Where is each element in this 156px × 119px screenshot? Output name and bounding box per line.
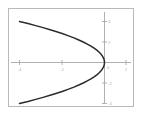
- x-tick-label-minus4: -4: [18, 67, 22, 72]
- plot-canvas: -4 -2 2 0 4 2 -2 -4: [9, 9, 133, 106]
- y-tick-label-4: 4: [108, 19, 111, 24]
- origin-label: 0: [107, 65, 110, 70]
- x-tick-label-2: 2: [125, 67, 128, 72]
- y-tick-label-2: 2: [108, 40, 111, 45]
- x-tick-label-minus2: -2: [60, 67, 64, 72]
- y-tick-label-minus2: -2: [108, 81, 112, 86]
- plot-frame: -4 -2 2 0 4 2 -2 -4: [8, 8, 134, 107]
- y-tick-label-minus4: -4: [108, 101, 112, 106]
